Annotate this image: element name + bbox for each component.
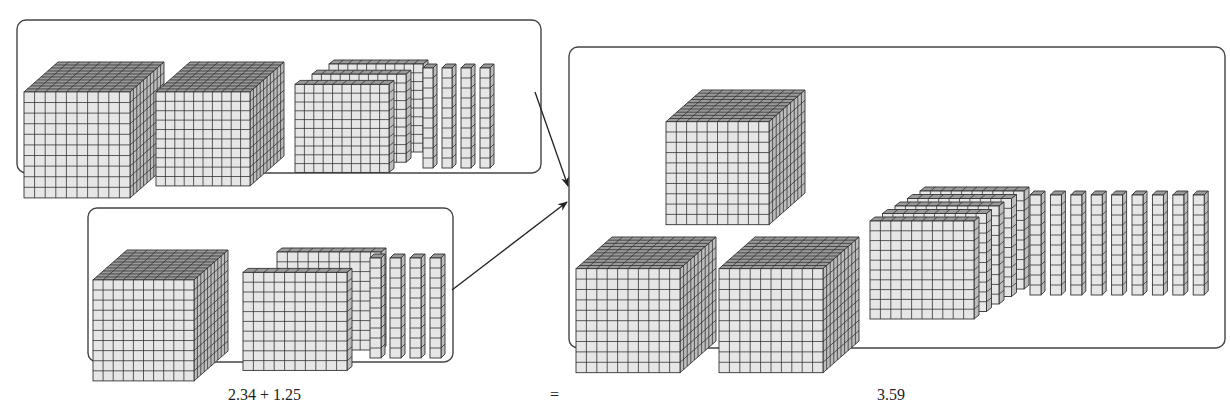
tenths-flat bbox=[870, 217, 979, 319]
hundredths-rod bbox=[430, 254, 445, 358]
hundredths-rod bbox=[1071, 191, 1086, 295]
equation-result: 3.59 bbox=[877, 386, 905, 404]
equation-addends: 2.34 + 1.25 bbox=[228, 386, 301, 404]
hundredths-rod bbox=[442, 64, 456, 168]
hundredths-rod bbox=[370, 254, 385, 358]
ones-cube bbox=[576, 237, 716, 373]
hundredths-rod bbox=[1091, 191, 1106, 295]
hundredths-rod bbox=[390, 254, 405, 358]
hundredths-rod bbox=[461, 64, 475, 168]
group-addend-1 bbox=[24, 60, 494, 198]
hundredths-rod bbox=[1173, 191, 1188, 295]
tenths-flat bbox=[295, 80, 394, 172]
ones-cube bbox=[93, 250, 228, 381]
group-addend-2 bbox=[93, 248, 445, 381]
ones-cube bbox=[719, 237, 859, 373]
base-ten-diagram bbox=[0, 0, 1230, 416]
tenths-flat bbox=[243, 268, 352, 370]
hundredths-rod bbox=[480, 64, 494, 168]
hundredths-rod bbox=[1132, 191, 1147, 295]
combine-arrow bbox=[535, 92, 568, 186]
blocks-layer bbox=[24, 60, 1208, 381]
hundredths-rod bbox=[423, 64, 437, 168]
hundredths-rod bbox=[1112, 191, 1127, 295]
hundredths-rod bbox=[1152, 191, 1167, 295]
hundredths-rod bbox=[1050, 191, 1065, 295]
ones-cube bbox=[156, 62, 284, 186]
group-sum bbox=[576, 90, 1208, 373]
ones-cube bbox=[666, 90, 805, 225]
ones-cube bbox=[24, 62, 164, 198]
equation-equals-sign: = bbox=[550, 386, 559, 404]
hundredths-rod bbox=[410, 254, 425, 358]
hundredths-rod bbox=[1193, 191, 1208, 295]
combine-arrow bbox=[452, 202, 567, 290]
hundredths-rod bbox=[1030, 191, 1045, 295]
